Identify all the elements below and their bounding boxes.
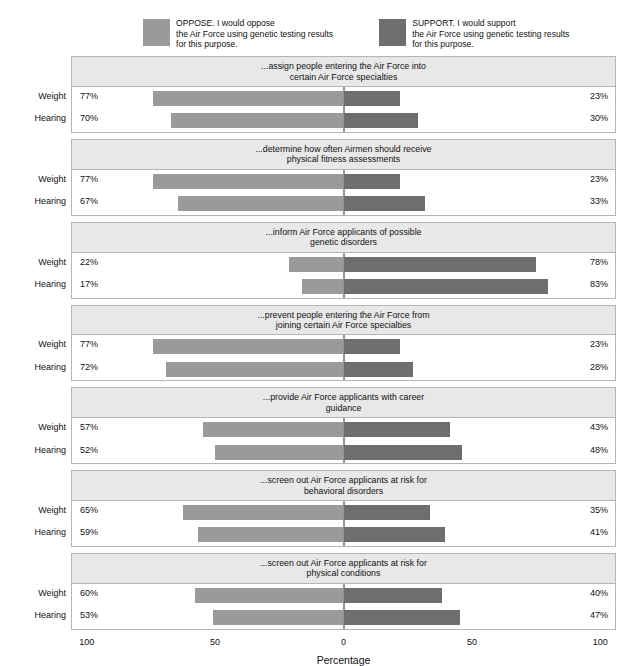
row-label: Hearing bbox=[34, 196, 66, 206]
bar-support bbox=[344, 113, 418, 128]
panel-header: ...screen out Air Force applicants at ri… bbox=[71, 553, 616, 583]
chart-row: Weight22%78% bbox=[72, 253, 615, 276]
diverging-bar-chart: ...assign people entering the Air Force … bbox=[10, 56, 630, 630]
panel-title: ...inform Air Force applicants of possib… bbox=[72, 227, 615, 248]
bar-oppose bbox=[153, 339, 343, 354]
bar-support bbox=[344, 527, 445, 542]
axis-tick-label: 50 bbox=[467, 637, 477, 647]
bar-oppose bbox=[289, 257, 343, 272]
bar-oppose bbox=[195, 588, 343, 603]
panel-title: ...screen out Air Force applicants at ri… bbox=[72, 558, 615, 579]
axis-tick-label: 100 bbox=[593, 637, 608, 647]
bar-support bbox=[344, 362, 413, 377]
bar-support bbox=[344, 257, 537, 272]
x-axis-title: Percentage bbox=[61, 654, 626, 666]
bar-oppose bbox=[215, 445, 343, 460]
row-label: Hearing bbox=[34, 362, 66, 372]
legend-label-oppose: OPPOSE. I would oppose the Air Force usi… bbox=[176, 18, 333, 50]
oppose-value-label: 67% bbox=[80, 196, 98, 206]
bar-support bbox=[344, 279, 549, 294]
row-label: Weight bbox=[38, 257, 66, 267]
chart-row: Hearing70%30% bbox=[72, 109, 615, 132]
bar-oppose bbox=[166, 362, 344, 377]
support-value-label: 48% bbox=[590, 445, 608, 455]
oppose-value-label: 22% bbox=[80, 257, 98, 267]
support-value-label: 43% bbox=[590, 422, 608, 432]
support-value-label: 33% bbox=[590, 196, 608, 206]
row-label: Hearing bbox=[34, 279, 66, 289]
oppose-value-label: 60% bbox=[80, 588, 98, 598]
legend-swatch-oppose-icon bbox=[143, 19, 170, 46]
support-value-label: 78% bbox=[590, 257, 608, 267]
oppose-value-label: 77% bbox=[80, 339, 98, 349]
chart-panel: ...assign people entering the Air Force … bbox=[10, 56, 630, 133]
panel-title: ...provide Air Force applicants with car… bbox=[72, 392, 615, 413]
bar-oppose bbox=[183, 505, 343, 520]
support-value-label: 47% bbox=[590, 610, 608, 620]
row-label: Weight bbox=[38, 588, 66, 598]
chart-row: Hearing59%41% bbox=[72, 523, 615, 546]
chart-row: Weight77%23% bbox=[72, 170, 615, 193]
bar-oppose bbox=[178, 196, 343, 211]
bar-oppose bbox=[171, 113, 344, 128]
bar-oppose bbox=[213, 610, 344, 625]
support-value-label: 40% bbox=[590, 588, 608, 598]
row-label: Weight bbox=[38, 91, 66, 101]
oppose-value-label: 57% bbox=[80, 422, 98, 432]
chart-row: Weight65%35% bbox=[72, 501, 615, 524]
legend-entry-oppose: OPPOSE. I would oppose the Air Force usi… bbox=[143, 18, 333, 50]
panel-title: ...screen out Air Force applicants at ri… bbox=[72, 475, 615, 496]
x-axis-ticks: 10050050100 bbox=[61, 636, 626, 652]
bar-oppose bbox=[198, 527, 344, 542]
bar-support bbox=[344, 422, 450, 437]
chart-panel: ...screen out Air Force applicants at ri… bbox=[10, 470, 630, 547]
bar-support bbox=[344, 339, 401, 354]
chart-row: Weight77%23% bbox=[72, 335, 615, 358]
chart-row: Weight60%40% bbox=[72, 584, 615, 607]
panel-title: ...prevent people entering the Air Force… bbox=[72, 310, 615, 331]
support-value-label: 23% bbox=[590, 91, 608, 101]
axis-tick-label: 100 bbox=[79, 637, 94, 647]
panel-plot-area: Weight77%23%Hearing70%30% bbox=[71, 86, 616, 133]
legend-entry-support: SUPPORT. I would support the Air Force u… bbox=[379, 18, 569, 50]
chart-panel: ...provide Air Force applicants with car… bbox=[10, 387, 630, 464]
row-label: Weight bbox=[38, 505, 66, 515]
panel-plot-area: Weight77%23%Hearing67%33% bbox=[71, 169, 616, 216]
bar-support bbox=[344, 91, 401, 106]
row-label: Weight bbox=[38, 174, 66, 184]
row-label: Hearing bbox=[34, 610, 66, 620]
chart-row: Weight77%23% bbox=[72, 87, 615, 110]
panel-header: ...inform Air Force applicants of possib… bbox=[71, 222, 616, 252]
oppose-value-label: 77% bbox=[80, 174, 98, 184]
support-value-label: 35% bbox=[590, 505, 608, 515]
bar-oppose bbox=[203, 422, 344, 437]
axis-tick-label: 50 bbox=[210, 637, 220, 647]
oppose-value-label: 53% bbox=[80, 610, 98, 620]
chart-panel: ...inform Air Force applicants of possib… bbox=[10, 222, 630, 299]
chart-row: Hearing52%48% bbox=[72, 441, 615, 464]
row-label: Hearing bbox=[34, 113, 66, 123]
panel-title: ...determine how often Airmen should rec… bbox=[72, 144, 615, 165]
chart-row: Hearing53%47% bbox=[72, 606, 615, 629]
panel-plot-area: Weight65%35%Hearing59%41% bbox=[71, 500, 616, 547]
bar-support bbox=[344, 610, 460, 625]
panel-plot-area: Weight77%23%Hearing72%28% bbox=[71, 334, 616, 381]
chart-row: Weight57%43% bbox=[72, 418, 615, 441]
row-label: Hearing bbox=[34, 527, 66, 537]
bar-support bbox=[344, 196, 425, 211]
chart-panel: ...determine how often Airmen should rec… bbox=[10, 139, 630, 216]
chart-legend: OPPOSE. I would oppose the Air Force usi… bbox=[0, 0, 640, 56]
legend-label-support: SUPPORT. I would support the Air Force u… bbox=[412, 18, 569, 50]
panel-header: ...determine how often Airmen should rec… bbox=[71, 139, 616, 169]
panel-plot-area: Weight22%78%Hearing17%83% bbox=[71, 252, 616, 299]
panel-plot-area: Weight57%43%Hearing52%48% bbox=[71, 417, 616, 464]
row-label: Hearing bbox=[34, 445, 66, 455]
oppose-value-label: 59% bbox=[80, 527, 98, 537]
panel-plot-area: Weight60%40%Hearing53%47% bbox=[71, 583, 616, 630]
bar-oppose bbox=[153, 174, 343, 189]
chart-row: Hearing72%28% bbox=[72, 358, 615, 381]
bar-support bbox=[344, 174, 401, 189]
panel-header: ...assign people entering the Air Force … bbox=[71, 56, 616, 86]
row-label: Weight bbox=[38, 422, 66, 432]
support-value-label: 83% bbox=[590, 279, 608, 289]
